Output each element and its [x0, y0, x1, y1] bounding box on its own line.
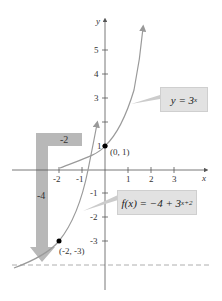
base-function-text: y = 3	[171, 94, 194, 106]
point-neg2-neg3	[57, 239, 62, 244]
x-tick-label: -1	[76, 174, 84, 184]
base-curve	[60, 28, 143, 168]
y-axis-label: y	[95, 16, 100, 26]
y-tick-label: -2	[90, 212, 98, 222]
x-tick-label: -2	[53, 174, 61, 184]
base-callout-pointer	[131, 95, 160, 104]
transformed-function-exponent: x+2	[181, 199, 192, 207]
point-label: (-2, -3)	[59, 246, 85, 256]
y-tick-label: 4	[94, 69, 99, 79]
x-tick-label: 3	[172, 174, 177, 184]
transformed-function-callout: f(x) = −4 + 3x+2	[117, 190, 197, 215]
transformed-function-text: f(x) = −4 + 3	[122, 197, 182, 209]
y-tick-label: 5	[94, 45, 99, 55]
graph-canvas: y x -2 -1 1 2 3 5 4 3 1 -1 -2 -3 (0, 1) …	[0, 0, 222, 301]
horizontal-shift-label: -2	[60, 134, 68, 145]
base-function-exponent: x	[194, 96, 197, 104]
y-tick-label: -1	[90, 188, 98, 198]
vertical-shift-label: -4	[37, 190, 45, 201]
x-axis-label: x	[201, 173, 206, 183]
base-function-callout: y = 3x	[160, 87, 208, 112]
y-tick-label: 3	[94, 93, 99, 103]
transformed-callout-pointer	[83, 195, 118, 211]
y-tick-label: -3	[90, 236, 98, 246]
point-0-1	[103, 144, 108, 149]
y-tick-label: 1	[97, 141, 102, 151]
x-tick-label: 1	[126, 174, 131, 184]
point-label: (0, 1)	[110, 147, 130, 157]
x-tick-label: 2	[149, 174, 154, 184]
